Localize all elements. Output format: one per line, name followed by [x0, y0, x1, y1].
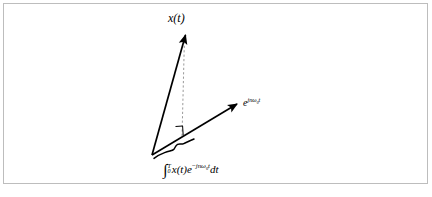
signal-vector-label-text: x(t) — [168, 11, 185, 25]
signal-vector-label: x(t) — [168, 12, 185, 24]
integral-limits: T0 — [167, 164, 170, 175]
projection-dashed-line — [182, 37, 185, 137]
differential-text: dt — [210, 163, 219, 175]
integrand-exponent: −jnω0t — [192, 162, 210, 169]
figure-root: x(t) ejnω0t ∫T0x(t)e−jnω0tdt — [0, 0, 432, 197]
basis-exponent-t: t — [259, 96, 261, 103]
basis-vector-label: ejnω0t — [243, 98, 260, 108]
integral-lower-limit: 0 — [167, 169, 170, 175]
integral-label: ∫T0x(t)e−jnω0tdt — [163, 160, 218, 176]
basis-vector-exponent: jnω0t — [247, 96, 260, 103]
integrand-signal-text: x(t) — [172, 163, 187, 175]
